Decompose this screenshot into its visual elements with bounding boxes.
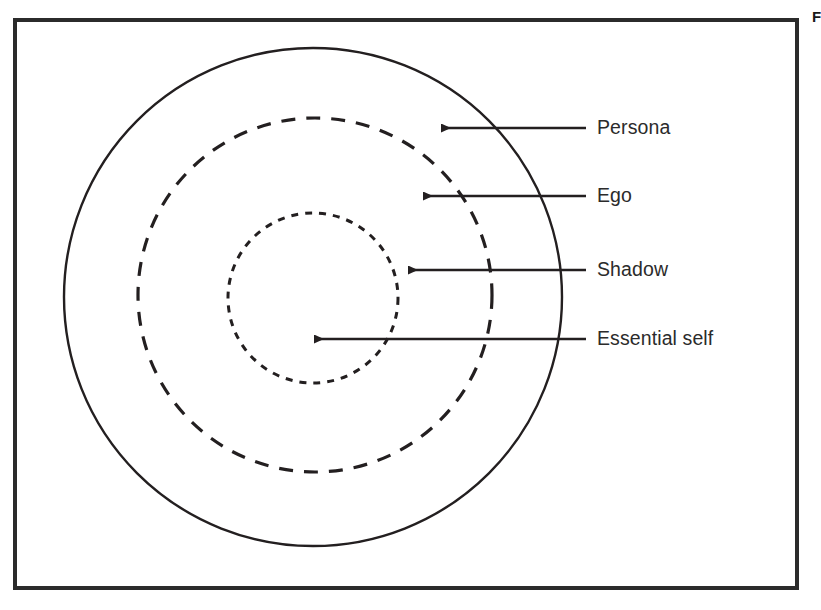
essential-self-label: Essential self bbox=[597, 329, 713, 349]
ego-label: Ego bbox=[597, 186, 632, 206]
persona-label: Persona bbox=[597, 118, 670, 138]
figure-caption-fragment: Figure bbox=[812, 8, 821, 25]
figure-border bbox=[15, 20, 797, 588]
shadow-label: Shadow bbox=[597, 260, 668, 280]
figure-container: Persona Ego Shadow Essential self Figure bbox=[0, 0, 821, 610]
concentric-circles-diagram bbox=[0, 0, 821, 610]
